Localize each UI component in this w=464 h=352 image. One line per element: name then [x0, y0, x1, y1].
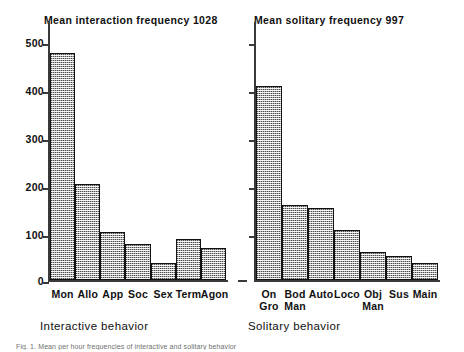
x-category-label: BodMan: [282, 288, 308, 312]
x-category-label: Soc: [125, 288, 150, 300]
y-tick-label-200: 200: [26, 181, 44, 193]
y-tick-label-500: 500: [26, 37, 44, 49]
bar: [50, 53, 75, 280]
bar: [360, 252, 386, 280]
bar: [412, 263, 438, 280]
bar: [176, 239, 201, 280]
figure-caption: Fig. 1. Mean per hour frequencies of int…: [16, 343, 456, 350]
x-category-label: Sus: [386, 288, 412, 312]
x-axis-line-right: [254, 280, 440, 282]
bar-series-interactive: [50, 22, 226, 280]
bar: [100, 232, 125, 280]
bar: [201, 248, 226, 280]
bar: [125, 244, 150, 280]
x-category-label: OnGro: [256, 288, 282, 312]
x-category-label: ObjMan: [360, 288, 386, 312]
x-category-label: Mon: [50, 288, 75, 300]
y-tick-label-0: 0: [38, 275, 44, 287]
figure-bar-charts: Mean interaction frequency 1028 500 400 …: [0, 0, 464, 352]
plot-area-solitary: [254, 22, 440, 282]
x-category-label: Loco: [334, 288, 360, 312]
bar: [256, 86, 282, 280]
x-category-label: Agon: [201, 288, 226, 300]
x-category-label: Allo: [75, 288, 100, 300]
bar: [282, 205, 308, 280]
x-axis-line-left: [48, 280, 228, 282]
panel-interactive-behavior: Mean interaction frequency 1028 500 400 …: [0, 0, 238, 352]
axis-break-mark: [238, 280, 247, 282]
bar-series-solitary: [256, 22, 438, 280]
x-axis-title-interactive: Interactive behavior: [40, 320, 148, 332]
y-tick-label-400: 400: [26, 85, 44, 97]
x-category-label: Sex: [151, 288, 176, 300]
bar: [308, 208, 334, 280]
x-category-label: Auto: [308, 288, 334, 312]
x-category-label: Term: [176, 288, 201, 300]
x-category-labels-interactive: MonAlloAppSocSexTermAgon: [50, 288, 230, 300]
bar: [386, 256, 412, 280]
bar: [151, 263, 176, 280]
x-category-labels-solitary: OnGroBodManAutoLocoObjManSusMain: [256, 288, 442, 312]
bar: [75, 184, 100, 280]
y-tick-label-100: 100: [26, 229, 44, 241]
x-category-label: Main: [412, 288, 438, 312]
plot-area-interactive: 500 400 300 200 100 0: [48, 22, 228, 282]
bar: [334, 230, 360, 280]
x-axis-title-solitary: Solitary behavior: [248, 320, 340, 332]
x-category-label: App: [100, 288, 125, 300]
y-tick-label-300: 300: [26, 133, 44, 145]
